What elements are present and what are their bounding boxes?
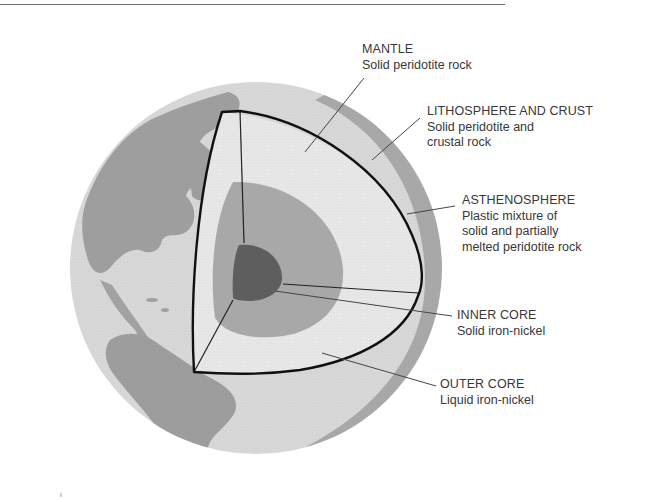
label-mantle-title: MANTLE: [362, 42, 472, 58]
label-outer-core-title: OUTER CORE: [440, 377, 534, 393]
label-mantle: MANTLE Solid peridotite rock: [362, 42, 472, 73]
label-inner-core-desc: Solid iron-nickel: [457, 324, 545, 340]
label-lithosphere: LITHOSPHERE AND CRUST Solid peridotite a…: [427, 104, 593, 151]
label-lithosphere-desc-2: crustal rock: [427, 135, 593, 151]
label-lithosphere-title: LITHOSPHERE AND CRUST: [427, 104, 593, 120]
scan-speck: [60, 493, 62, 497]
label-asthenosphere-title: ASTHENOSPHERE: [462, 193, 582, 209]
label-mantle-desc: Solid peridotite rock: [362, 58, 472, 74]
label-outer-core: OUTER CORE Liquid iron-nickel: [440, 377, 534, 408]
label-asthenosphere-desc-3: melted peridotite rock: [462, 240, 582, 256]
label-inner-core-title: INNER CORE: [457, 308, 545, 324]
label-asthenosphere: ASTHENOSPHERE Plastic mixture of solid a…: [462, 193, 582, 255]
label-outer-core-desc: Liquid iron-nickel: [440, 393, 534, 409]
label-inner-core: INNER CORE Solid iron-nickel: [457, 308, 545, 339]
label-asthenosphere-desc-1: Plastic mixture of: [462, 209, 582, 225]
label-asthenosphere-desc-2: solid and partially: [462, 224, 582, 240]
label-lithosphere-desc-1: Solid peridotite and: [427, 120, 593, 136]
